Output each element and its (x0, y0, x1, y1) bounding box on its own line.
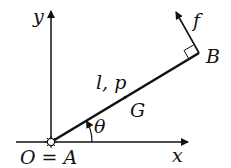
rod-label: l, p (96, 71, 126, 93)
center-of-mass-dot (124, 96, 127, 99)
end-label: B (205, 45, 220, 67)
angle-arc (87, 121, 93, 142)
center-label: G (130, 99, 145, 121)
origin-label: O = A (20, 146, 77, 168)
angle-label: θ (94, 115, 106, 137)
x-axis-label: x (172, 144, 183, 166)
force-label: f (191, 9, 203, 31)
rod-diagram: y x O = A l, p G B θ f (0, 0, 231, 168)
y-axis-label: y (32, 5, 44, 27)
